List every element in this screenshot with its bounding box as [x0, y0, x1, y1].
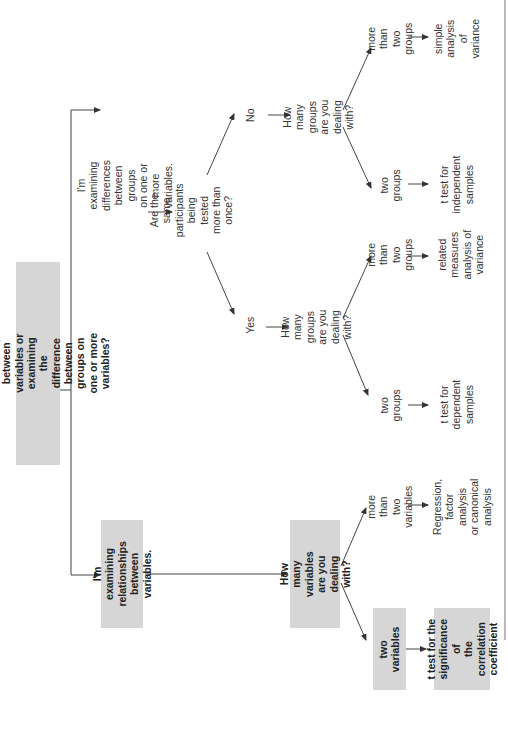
yes-two-groups-result: t test for dependent samples: [433, 370, 481, 440]
no-groups-question-text: How many groups are you dealing with?: [281, 93, 355, 141]
variables-question-text: How many variables are you dealing with?: [278, 549, 352, 599]
related-measures-anova-text: related measures analysis of variance: [436, 226, 486, 284]
simple-anova-text: simple analysis of variance: [432, 15, 482, 63]
t-test-dependent-text: t test for dependent samples: [438, 380, 475, 430]
no-two-groups-label: two groups: [374, 160, 406, 210]
no-groups-question: How many groups are you dealing with?: [294, 76, 342, 158]
no-two-groups-result: t test for independent samples: [433, 150, 481, 220]
yes-label: Yes: [240, 310, 260, 340]
yes-more-groups-result: related measures analysis of variance: [432, 222, 490, 288]
correlation-t-test-box: t test for the significance of the corre…: [434, 608, 490, 690]
yes-more-groups-text: more than two groups: [365, 239, 415, 271]
yes-groups-question: How many groups are you dealing with?: [292, 286, 340, 368]
regression-factor-canonical-text: Regression, factor analysis or canonical…: [431, 477, 493, 537]
no-more-groups-text: more than two groups: [365, 23, 415, 55]
two-variables-box: two variables: [373, 608, 406, 690]
relationships-box: I'm examining relationships between vari…: [101, 520, 143, 628]
more-variables-text: more than two variables: [365, 486, 415, 528]
root-question-box: Are you examining relationships between …: [16, 262, 60, 465]
no-two-groups-text: two groups: [378, 169, 403, 201]
more-variables-result: Regression, factor analysis or canonical…: [432, 464, 492, 550]
no-label: No: [240, 100, 260, 130]
yes-more-groups-label: more than two groups: [374, 222, 406, 288]
relationships-text: I'm examining relationships between vari…: [91, 541, 153, 606]
differences-statement: I'm examining differences between groups…: [104, 110, 146, 260]
same-participants-text: Are the same participants being tested m…: [148, 183, 235, 237]
root-question-text: Are you examining relationships between …: [0, 331, 112, 396]
no-more-groups-label: more than two groups: [374, 6, 406, 72]
two-variables-text: two variables: [377, 626, 402, 672]
yes-groups-question-text: How many groups are you dealing with?: [279, 303, 353, 351]
no-text: No: [244, 105, 256, 125]
t-test-independent-text: t test for independent samples: [438, 156, 475, 214]
yes-two-groups-text: two groups: [378, 389, 403, 421]
more-variables-label: more than two variables: [374, 470, 406, 544]
variables-question-box: How many variables are you dealing with?: [290, 520, 340, 628]
correlation-t-test-text: t test for the significance of the corre…: [425, 619, 499, 680]
no-more-groups-result: simple analysis of variance: [433, 6, 481, 72]
yes-two-groups-label: two groups: [374, 380, 406, 430]
same-participants-question: Are the same participants being tested m…: [176, 120, 206, 300]
yes-text: Yes: [244, 315, 256, 335]
